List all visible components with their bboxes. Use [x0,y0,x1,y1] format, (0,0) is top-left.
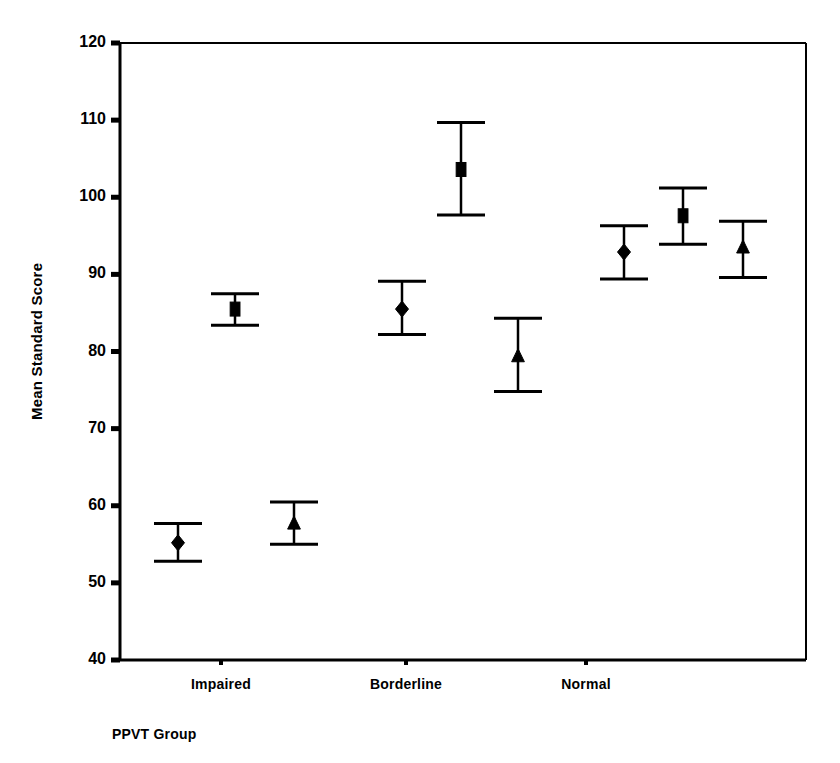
chart-figure: Mean Standard Score PPVT Group 405060708… [0,0,840,763]
plot-area [0,0,840,763]
x-axis-title: PPVT Group [112,726,196,742]
y-tick-label: 60 [58,497,106,513]
plot-frame [120,43,806,660]
marker-triangle [288,516,301,529]
x-tick-label-impaired: Impaired [191,676,251,692]
marker-triangle [512,349,525,362]
data-point [270,502,318,544]
data-point [719,221,767,277]
y-tick-label: 100 [58,188,106,204]
y-tick-label: 40 [58,651,106,667]
data-point [437,122,485,215]
y-tick-label: 110 [58,111,106,127]
y-tick-label: 90 [58,265,106,281]
data-point [659,188,707,244]
marker-square [456,162,466,176]
y-axis-title: Mean Standard Score [28,120,45,420]
y-tick-label: 120 [58,34,106,50]
data-point [378,281,426,334]
marker-square [230,302,240,316]
data-point [154,523,202,561]
y-tick-label: 50 [58,574,106,590]
y-tick-label: 70 [58,420,106,436]
y-tick-label: 80 [58,343,106,359]
data-point [494,318,542,391]
x-tick-label-normal: Normal [561,676,610,692]
marker-triangle [737,240,750,253]
x-tick-label-borderline: Borderline [370,676,442,692]
marker-square [678,209,688,223]
data-point [211,294,259,326]
marker-diamond [396,301,409,317]
marker-diamond [172,535,185,551]
data-points-group [154,122,767,561]
marker-diamond [618,244,631,260]
data-point [600,226,648,279]
